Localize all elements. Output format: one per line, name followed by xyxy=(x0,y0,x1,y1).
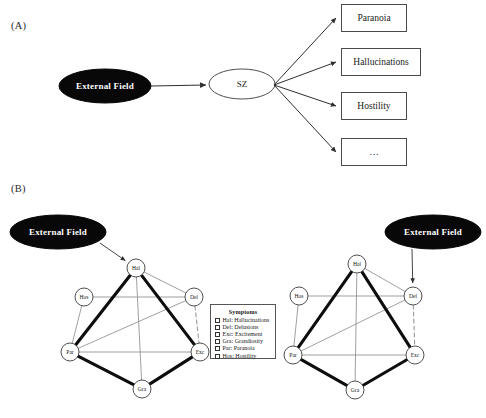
panel-a-outcome-box-hostility: Hostility xyxy=(341,92,407,120)
edge-par-del-thin xyxy=(78,301,186,349)
edge-par-gra-thick xyxy=(301,359,347,385)
edge-hos-par-thin xyxy=(294,305,298,346)
legend-item-list: Hal: HallucinationsDel: DelusionsExc: Ex… xyxy=(215,317,271,360)
external-field-ellipse xyxy=(385,215,481,249)
arrow-external-field-to-hal xyxy=(100,243,125,261)
edge-hal-del-thin xyxy=(144,272,186,293)
symptoms-legend: Symptoms Hal: HallucinationsDel: Delusio… xyxy=(210,304,276,359)
legend-item-text: Exc: Excitement xyxy=(223,331,263,337)
node-gra xyxy=(133,380,151,398)
panel-a-graphics xyxy=(59,18,336,152)
legend-item-exc: Exc: Excitement xyxy=(215,331,271,338)
arrow-external-field-to-del xyxy=(412,249,413,283)
legend-bullet-icon xyxy=(215,332,220,337)
edge-par-gra-thick xyxy=(78,356,134,385)
node-exc xyxy=(406,346,424,364)
edge-hal-exc-thick xyxy=(141,275,194,345)
legend-item-hal: Hal: Hallucinations xyxy=(215,317,271,324)
node-del xyxy=(185,288,203,306)
figure-root: (A) (B) External FieldSZParanoiaHallucin… xyxy=(0,0,486,418)
panel-label-b: (B) xyxy=(11,183,26,194)
outcome-box-label: Hostility xyxy=(357,101,390,111)
edge-gra-exc-thick xyxy=(150,357,193,384)
network-right xyxy=(284,215,481,399)
legend-item-text: Gra: Grandiosity xyxy=(223,338,264,344)
edge-hal-par-thick xyxy=(298,271,352,347)
legend-item-text: Hal: Hallucinations xyxy=(223,317,270,323)
node-par xyxy=(284,346,302,364)
legend-bullet-icon xyxy=(215,318,220,323)
panel-a-arrow-sz-to-outcome-1 xyxy=(274,62,336,85)
edge-par-del-thin xyxy=(301,300,405,351)
outcome-box-label: Paranoia xyxy=(357,13,390,23)
legend-bullet-icon xyxy=(215,354,220,359)
legend-item-hos: Hos: Hostility xyxy=(215,353,271,360)
panel-a-arrow-field-to-sz xyxy=(151,85,206,86)
node-gra xyxy=(346,381,364,399)
node-hal xyxy=(127,259,145,277)
legend-bullet-icon xyxy=(215,339,220,344)
panel-a-sz-ellipse xyxy=(209,69,275,99)
legend-bullet-icon xyxy=(215,346,220,351)
node-hos xyxy=(75,288,93,306)
panel-a-arrow-sz-to-outcome-0 xyxy=(274,18,336,85)
panel-a-outcome-box-hallucinations: Hallucinations xyxy=(341,48,421,76)
node-hal xyxy=(348,255,366,273)
edge-hal-gra-thin xyxy=(355,273,357,381)
panel-a-outcome-box-: … xyxy=(341,138,407,166)
legend-item-gra: Gra: Grandiosity xyxy=(215,338,271,345)
legend-item-text: Hos: Hostility xyxy=(223,353,257,359)
legend-title: Symptoms xyxy=(215,308,271,315)
legend-item-text: Del: Delusions xyxy=(223,324,259,330)
outcome-box-label: Hallucinations xyxy=(353,57,408,67)
edge-gra-exc-thick xyxy=(363,360,407,386)
edge-hal-gra-thin xyxy=(136,277,141,380)
panel-a-external-field-ellipse xyxy=(59,69,151,103)
node-del xyxy=(404,287,422,305)
edge-del-exc-dashed xyxy=(413,305,414,346)
edge-hal-par-thick xyxy=(76,275,131,345)
node-exc xyxy=(191,343,209,361)
node-hos xyxy=(290,287,308,305)
node-par xyxy=(61,343,79,361)
legend-item-text: Par: Paranoia xyxy=(223,345,255,351)
external-field-ellipse xyxy=(10,215,106,249)
panel-label-a: (A) xyxy=(11,20,26,31)
panel-a-outcome-box-paranoia: Paranoia xyxy=(341,4,407,32)
outcome-box-label: … xyxy=(369,147,379,157)
legend-bullet-icon xyxy=(215,325,220,330)
edge-hal-exc-thick xyxy=(362,272,410,348)
legend-item-par: Par: Paranoia xyxy=(215,345,271,352)
edge-del-exc-dashed xyxy=(195,306,199,343)
legend-item-del: Del: Delusions xyxy=(215,324,271,331)
network-left xyxy=(10,215,209,398)
